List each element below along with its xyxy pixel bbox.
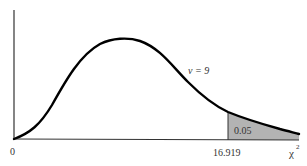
chi-square-chart: ν = 9 0.05 0 16.919 χ 2 (0, 0, 307, 166)
dof-label: ν = 9 (188, 65, 209, 76)
x-axis-label-superscript: 2 (296, 143, 300, 151)
x-axis-label: χ (288, 147, 294, 159)
x-tick-0: 0 (10, 146, 15, 157)
x-tick-critical: 16.919 (213, 147, 241, 158)
shaded-area-label: 0.05 (234, 125, 252, 136)
